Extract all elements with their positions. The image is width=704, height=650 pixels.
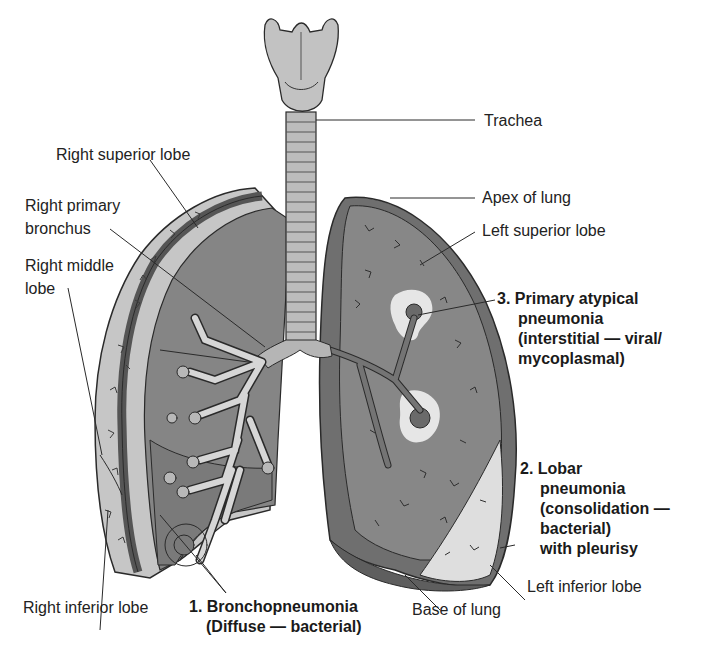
lobar-pneumonia-line4: bacterial) [520,519,670,539]
left-lung [319,197,516,591]
lobar-pneumonia-line5: with pleurisy [520,539,670,559]
larynx [264,19,338,111]
label-right-primary-bronchus-line1: Right primary [25,196,120,215]
atypical-pneumonia-line3: (interstitial — viral/ [497,329,662,349]
lobar-pneumonia-line1: 2. Lobar [520,459,670,479]
label-right-inferior-lobe: Right inferior lobe [23,598,148,617]
label-primary-atypical-pneumonia: 3. Primary atypical pneumonia (interstit… [497,289,662,369]
label-right-primary-bronchus: Right primary bronchus [25,196,120,238]
label-apex-of-lung: Apex of lung [482,188,571,207]
right-lung [95,188,290,578]
bronchopneumonia-line1: 1. Bronchopneumonia [189,597,362,617]
label-right-middle-lobe-line1: Right middle [25,256,114,275]
label-right-superior-lobe: Right superior lobe [56,145,190,164]
label-right-middle-lobe-line2: lobe [25,279,114,298]
pneumonia-diagram: Trachea Apex of lung Left superior lobe … [0,0,704,650]
bronchopneumonia-line2: (Diffuse — bacterial) [189,617,362,637]
label-bronchopneumonia: 1. Bronchopneumonia (Diffuse — bacterial… [189,597,362,637]
label-base-of-lung: Base of lung [412,600,501,619]
lobar-pneumonia-line3: (consolidation — [520,499,670,519]
label-left-superior-lobe: Left superior lobe [482,221,606,240]
label-trachea: Trachea [484,111,542,130]
atypical-pneumonia-line4: mycoplasmal) [497,349,662,369]
label-left-inferior-lobe: Left inferior lobe [527,577,642,596]
label-right-primary-bronchus-line2: bronchus [25,219,120,238]
atypical-pneumonia-line1: 3. Primary atypical [497,289,662,309]
lobar-pneumonia-line2: pneumonia [520,479,670,499]
label-lobar-pneumonia: 2. Lobar pneumonia (consolidation — bact… [520,459,670,559]
label-right-middle-lobe: Right middle lobe [25,256,114,298]
atypical-pneumonia-line2: pneumonia [497,309,662,329]
